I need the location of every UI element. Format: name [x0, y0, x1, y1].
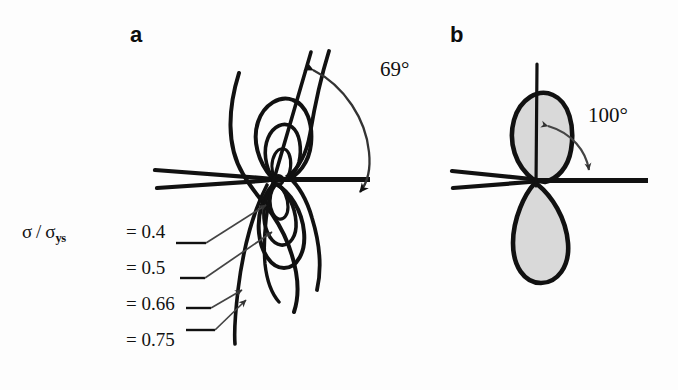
figure-root: a b 69° 100° σ / σys = 0.4 = 0.5 = 0.66 …	[0, 0, 678, 390]
figure-drawing	[0, 0, 678, 390]
leader-pointer-066	[205, 232, 272, 278]
plastic-zone-lower-lobe-b	[513, 184, 568, 283]
panel-a-drawing	[155, 51, 370, 344]
angle-arc-69	[313, 70, 370, 192]
lobe-upper-large-a	[256, 99, 312, 180]
crack-face-lower-b	[453, 182, 536, 189]
crack-face-upper-a	[155, 170, 268, 179]
radial-reference-line-b	[536, 64, 537, 186]
leader-pointer-04	[215, 300, 246, 330]
panel-b-drawing	[452, 64, 648, 283]
plastic-zone-upper-lobe-b	[512, 93, 572, 182]
